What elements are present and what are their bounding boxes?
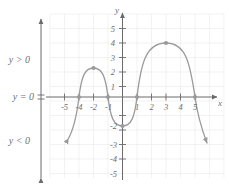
y-tick-label: -5 xyxy=(110,169,117,179)
x-tick-label: -1 xyxy=(105,102,112,112)
y-tick-label: -2 xyxy=(110,121,118,131)
x-tick-label: -5 xyxy=(61,102,68,112)
x-tick-label: 1 xyxy=(135,102,139,112)
x-tick-label: -2 xyxy=(90,102,98,112)
y-tick-label: -4 xyxy=(110,154,118,164)
marker-x-intercept xyxy=(77,95,81,99)
x-axis xyxy=(46,94,217,101)
y-tick-label: 1 xyxy=(111,82,115,92)
marker-local-maximum xyxy=(91,66,95,70)
annotation-positive-region: y > 0 xyxy=(8,54,30,65)
x-tick-labels: -5 -4 -2 -1 1 2 3 4 5 xyxy=(61,102,197,112)
x-tick-label: -4 xyxy=(75,102,83,112)
y-axis-label: y xyxy=(114,5,119,15)
x-tick-label: 3 xyxy=(163,102,168,112)
coordinate-plane-svg: y x -5 -4 -2 -1 1 2 3 4 5 5 4 3 2 1 -2 -… xyxy=(0,0,229,187)
y-tick-label: 5 xyxy=(111,24,115,34)
graph-figure: y x -5 -4 -2 -1 1 2 3 4 5 5 4 3 2 1 -2 -… xyxy=(0,0,229,187)
y-tick-label: 3 xyxy=(110,53,115,63)
marker-x-intercept xyxy=(106,95,110,99)
marker-local-maximum xyxy=(164,41,168,45)
y-tick-label: -3 xyxy=(110,140,117,150)
annotation-negative-region: y < 0 xyxy=(8,135,30,146)
sign-indicator-bar xyxy=(38,19,45,178)
marker-x-intercept xyxy=(135,95,139,99)
x-tick-label: 5 xyxy=(193,102,197,112)
annotation-zero-region: y = 0 xyxy=(12,91,34,102)
x-tick-label: 2 xyxy=(149,102,154,112)
x-tick-label: 4 xyxy=(178,102,183,112)
marker-local-minimum xyxy=(120,124,124,128)
x-axis-label: x xyxy=(217,98,222,108)
marker-x-intercept xyxy=(193,95,197,99)
function-curve xyxy=(69,43,208,143)
